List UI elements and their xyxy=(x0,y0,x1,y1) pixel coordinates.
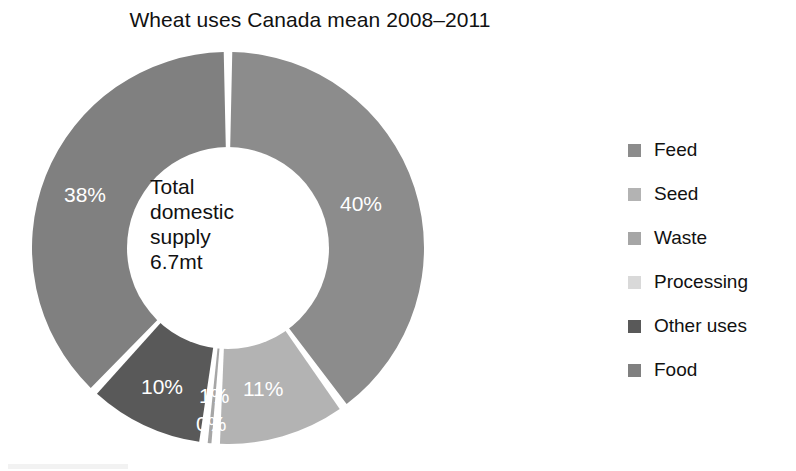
legend-label-seed: Seed xyxy=(654,183,698,205)
slice-label-processing: 0% xyxy=(196,412,226,436)
slice-label-food: 38% xyxy=(64,183,106,207)
legend-swatch-waste xyxy=(628,232,641,245)
slice-label-other-uses: 10% xyxy=(141,375,183,399)
legend-label-food: Food xyxy=(654,359,697,381)
slice-label-feed: 40% xyxy=(340,192,382,216)
legend-swatch-other-uses xyxy=(628,320,641,333)
legend-swatch-food xyxy=(628,364,641,377)
legend-swatch-processing xyxy=(628,276,641,289)
legend-label-waste: Waste xyxy=(654,227,707,249)
slice-label-seed: 11% xyxy=(243,377,283,401)
donut-chart: Wheat uses Canada mean 2008–2011 Total d… xyxy=(0,0,796,471)
legend-swatch-feed xyxy=(628,144,641,157)
legend-label-other-uses: Other uses xyxy=(654,315,747,337)
legend-item-food[interactable]: Food xyxy=(628,348,788,392)
legend-item-waste[interactable]: Waste xyxy=(628,216,788,260)
legend-item-seed[interactable]: Seed xyxy=(628,172,788,216)
legend-item-feed[interactable]: Feed xyxy=(628,128,788,172)
legend-item-other-uses[interactable]: Other uses xyxy=(628,304,788,348)
legend-swatch-seed xyxy=(628,188,641,201)
slice-label-waste: 1% xyxy=(199,384,229,408)
legend-label-feed: Feed xyxy=(654,139,697,161)
cropped-caption-artifact xyxy=(8,464,128,469)
chart-title: Wheat uses Canada mean 2008–2011 xyxy=(0,8,620,32)
donut-hole xyxy=(127,147,329,349)
legend-label-processing: Processing xyxy=(654,271,748,293)
legend-item-processing[interactable]: Processing xyxy=(628,260,788,304)
chart-legend: FeedSeedWasteProcessingOther usesFood xyxy=(628,128,788,392)
